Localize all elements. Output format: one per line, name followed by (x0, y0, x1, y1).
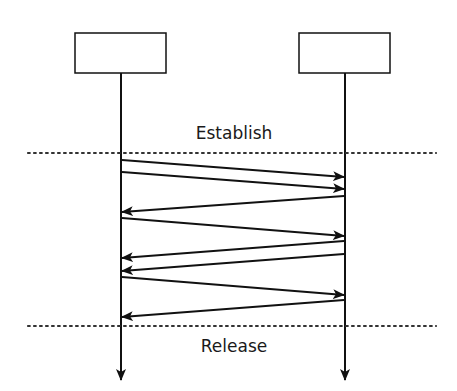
participant-right (299, 33, 390, 380)
phase-release: Release (28, 326, 436, 356)
participants (75, 33, 390, 380)
phase-label: Establish (196, 123, 273, 143)
participant-box (299, 33, 390, 73)
message-arrow (122, 254, 344, 271)
phase-separators: EstablishRelease (28, 123, 436, 356)
messages (122, 160, 344, 317)
message-arrow (122, 218, 344, 236)
message-arrow (122, 241, 344, 258)
message-arrow (122, 196, 344, 212)
phase-label: Release (201, 336, 267, 356)
message-arrow (122, 300, 344, 317)
phase-establish: Establish (28, 123, 436, 153)
participant-box (75, 33, 166, 73)
message-arrow (122, 277, 344, 295)
participant-left (75, 33, 166, 380)
sequence-diagram: EstablishRelease (0, 0, 457, 391)
